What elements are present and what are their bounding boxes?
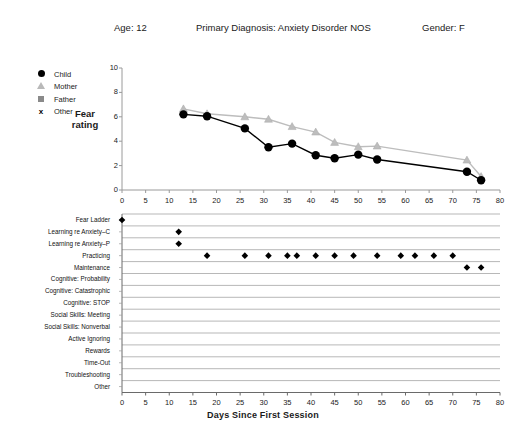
x-tick-label: 30 (257, 398, 271, 407)
x-tick-label: 80 (493, 196, 507, 205)
x-tick-label: 40 (304, 398, 318, 407)
x-tick-label: 65 (422, 196, 436, 205)
x-tick-label: 55 (375, 196, 389, 205)
intervention-row-labels: Fear LadderLearning re Anxiety–CLearning… (0, 0, 118, 448)
x-tick-label: 35 (280, 398, 294, 407)
x-tick-label: 15 (186, 196, 200, 205)
x-tick-label: 25 (233, 196, 247, 205)
x-tick-label: 75 (469, 398, 483, 407)
intervention-row-label: Social Skills: Meeting (51, 311, 111, 319)
patient-age: Age: 12 (114, 22, 147, 33)
y-tick-label: 8 (106, 87, 118, 96)
x-tick-label: 45 (328, 196, 342, 205)
x-tick-label: 25 (233, 398, 247, 407)
intervention-row-label: Practicing (82, 252, 110, 260)
x-tick-label: 65 (422, 398, 436, 407)
x-tick-label: 60 (399, 196, 413, 205)
intervention-row-label: Cognitive: Probability (51, 275, 110, 283)
x-tick-label: 10 (162, 196, 176, 205)
intervention-row-label: Cognitive: Catastrophic (45, 287, 110, 295)
x-tick-label: 40 (304, 196, 318, 205)
x-tick-label: 70 (446, 398, 460, 407)
intervention-row-label: Learning re Anxiety–P (48, 240, 110, 248)
intervention-row-label: Maintenance (74, 264, 110, 272)
intervention-row-label: Cognitive: STOP (63, 299, 110, 307)
x-axis-title: Days Since First Session (0, 410, 526, 420)
x-tick-label: 5 (139, 196, 153, 205)
intervention-row-label: Fear Ladder (76, 216, 110, 224)
x-tick-label: 30 (257, 196, 271, 205)
y-tick-label: 4 (106, 136, 118, 145)
intervention-row-label: Learning re Anxiety–C (48, 228, 110, 236)
x-tick-label: 70 (446, 196, 460, 205)
y-tick-label: 10 (106, 63, 118, 72)
x-tick-label: 35 (280, 196, 294, 205)
primary-diagnosis: Primary Diagnosis: Anxiety Disorder NOS (196, 22, 371, 33)
patient-gender: Gender: F (422, 22, 465, 33)
x-tick-label: 80 (493, 398, 507, 407)
intervention-row-label: Troubleshooting (65, 371, 110, 379)
intervention-row-label: Rewards (85, 347, 110, 355)
x-tick-label: 0 (115, 196, 129, 205)
x-tick-label: 60 (399, 398, 413, 407)
y-tick-label: 0 (106, 185, 118, 194)
x-tick-label: 50 (351, 398, 365, 407)
x-tick-label: 0 (115, 398, 129, 407)
intervention-row-label: Social Skills: Nonverbal (44, 323, 110, 331)
x-tick-label: 50 (351, 196, 365, 205)
x-tick-label: 20 (210, 398, 224, 407)
y-tick-label: 6 (106, 112, 118, 121)
intervention-row-label: Time-Out (84, 359, 110, 367)
intervention-row-label: Other (94, 383, 110, 391)
intervention-row-label: Active Ignoring (68, 335, 110, 343)
x-tick-label: 20 (210, 196, 224, 205)
x-tick-label: 75 (469, 196, 483, 205)
x-tick-label: 5 (139, 398, 153, 407)
x-tick-label: 55 (375, 398, 389, 407)
x-tick-label: 10 (162, 398, 176, 407)
x-tick-label: 45 (328, 398, 342, 407)
y-tick-label: 2 (106, 161, 118, 170)
x-tick-label: 15 (186, 398, 200, 407)
